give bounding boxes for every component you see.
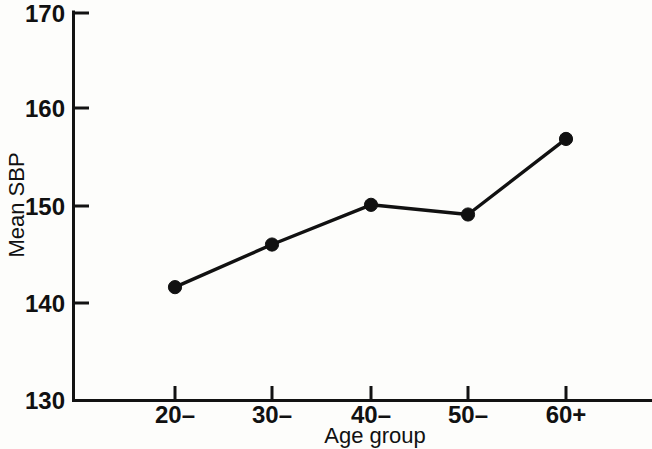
data-point-40– <box>364 198 377 211</box>
y-tick-label-170: 170 <box>25 0 65 27</box>
x-axis-title: Age group <box>324 423 426 448</box>
data-point-30– <box>265 238 278 251</box>
data-point-60+ <box>559 132 572 145</box>
data-point-20– <box>168 281 181 294</box>
chart-page: 170 160 150 140 130 20– 30– 40– 50– 60+ … <box>0 0 652 449</box>
x-tick-label-1: 30– <box>252 401 292 428</box>
data-point-50– <box>461 208 474 221</box>
y-tick-label-160: 160 <box>25 95 65 122</box>
x-tick-label-4: 60+ <box>546 401 587 428</box>
x-tick-label-0: 20– <box>155 401 195 428</box>
y-axis-title: Mean SBP <box>4 152 29 257</box>
x-tick-label-3: 50– <box>448 401 488 428</box>
y-tick-label-150: 150 <box>25 193 65 220</box>
line-chart: 170 160 150 140 130 20– 30– 40– 50– 60+ … <box>0 0 652 449</box>
y-tick-label-130: 130 <box>25 387 65 414</box>
y-tick-label-140: 140 <box>25 290 65 317</box>
